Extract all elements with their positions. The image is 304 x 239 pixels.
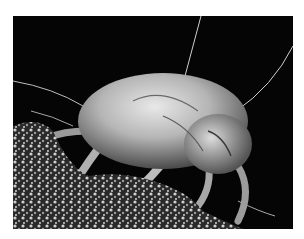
micrograph-photo — [13, 16, 293, 229]
dust-mite-illustration — [13, 16, 293, 229]
